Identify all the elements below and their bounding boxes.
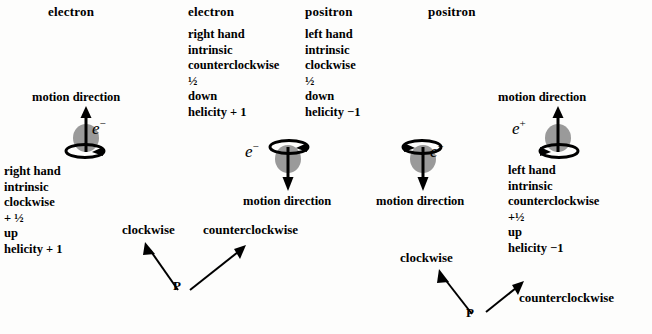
- column-header-3: positron: [305, 4, 353, 20]
- attr-3-1: intrinsic: [305, 43, 360, 59]
- particle-symbol-1: e−: [92, 117, 106, 139]
- particle-symbol-text-4: e: [512, 119, 520, 138]
- attr-4-3: +½: [508, 210, 599, 226]
- motion-direction-label-4: motion direction: [498, 90, 586, 105]
- particle-symbol-4: e+: [512, 117, 526, 139]
- attr-3-4: down: [305, 89, 360, 105]
- attribute-list-3: left hand intrinsic clockwise ½ down hel…: [305, 27, 360, 120]
- attr-3-0: left hand: [305, 27, 360, 43]
- parity-1-arrows: [130, 240, 270, 295]
- parity-operator-2-text: P: [466, 305, 474, 320]
- attr-1-0: right hand: [4, 164, 63, 180]
- attr-2-3: ½: [188, 74, 279, 90]
- particle-symbol-text-1: e: [92, 119, 100, 138]
- parity-operator-1-text: P: [173, 278, 181, 293]
- attribute-list-2: right hand intrinsic counterclockwise ½ …: [188, 27, 279, 120]
- attr-2-5: helicity + 1: [188, 105, 279, 121]
- particle-charge-4: +: [520, 117, 526, 129]
- particle-glyph-2: [262, 133, 332, 195]
- attr-3-3: ½: [305, 74, 360, 90]
- particle-symbol-text-3: e: [430, 142, 438, 161]
- helicity-parity-diagram: electron electron positron positron moti…: [0, 0, 652, 334]
- particle-charge-3: +: [438, 140, 444, 152]
- motion-direction-label-3: motion direction: [376, 194, 464, 209]
- attr-1-4: up: [4, 226, 63, 242]
- motion-direction-label-1: motion direction: [32, 90, 120, 105]
- attr-2-2: counterclockwise: [188, 58, 279, 74]
- parity-2-arrows: [420, 266, 550, 321]
- particle-symbol-2: e−: [245, 140, 259, 162]
- attr-4-5: helicity −1: [508, 241, 599, 257]
- particle-symbol-text-2: e: [245, 142, 253, 161]
- particle-charge-2: −: [253, 140, 259, 152]
- attr-2-1: intrinsic: [188, 43, 279, 59]
- attr-3-5: helicity −1: [305, 105, 360, 121]
- attribute-list-4: left hand intrinsic counterclockwise +½ …: [508, 163, 599, 256]
- attr-4-1: intrinsic: [508, 179, 599, 195]
- parity-1-right-target: counterclockwise: [203, 222, 298, 238]
- attr-1-2: clockwise: [4, 195, 63, 211]
- attr-3-2: clockwise: [305, 58, 360, 74]
- parity-2-left-target: clockwise: [400, 250, 453, 266]
- attr-1-3: + ½: [4, 211, 63, 227]
- column-header-1: electron: [48, 4, 94, 20]
- attr-2-0: right hand: [188, 27, 279, 43]
- attribute-list-1: right hand intrinsic clockwise + ½ up he…: [4, 164, 63, 257]
- parity-operator-2: P: [466, 305, 474, 321]
- attr-4-0: left hand: [508, 163, 599, 179]
- column-header-2: electron: [188, 4, 234, 20]
- particle-glyph-4: [528, 106, 600, 166]
- column-header-4: positron: [428, 4, 476, 20]
- motion-direction-label-2: motion direction: [243, 194, 331, 209]
- attr-2-4: down: [188, 89, 279, 105]
- attr-1-5: helicity + 1: [4, 242, 63, 258]
- attr-4-2: counterclockwise: [508, 194, 599, 210]
- parity-1-left-target: clockwise: [122, 222, 175, 238]
- particle-symbol-3: e+: [430, 140, 444, 162]
- particle-charge-1: −: [100, 117, 106, 129]
- attr-1-1: intrinsic: [4, 180, 63, 196]
- parity-operator-1: P: [173, 278, 181, 294]
- attr-4-4: up: [508, 225, 599, 241]
